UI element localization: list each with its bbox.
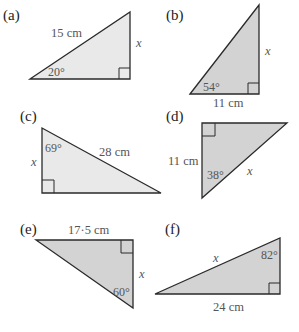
panel-label-c: (c) bbox=[20, 108, 37, 125]
unknown-label-e: x bbox=[138, 267, 145, 281]
angle-label-c: 69° bbox=[45, 141, 62, 155]
triangle-c-shape bbox=[42, 128, 161, 193]
adjacent-label-b: 11 cm bbox=[213, 96, 244, 110]
triangle-a: (a) 15 cm x 20° bbox=[3, 7, 142, 79]
triangle-f-shape bbox=[155, 238, 280, 294]
opposite-label-e: 17·5 cm bbox=[68, 223, 110, 237]
angle-label-d: 38° bbox=[207, 168, 224, 182]
adjacent-label-d: 11 cm bbox=[168, 154, 199, 168]
triangle-a-shape bbox=[30, 12, 130, 79]
unknown-label-f: x bbox=[212, 251, 219, 265]
unknown-label-a: x bbox=[135, 36, 142, 50]
angle-label-a: 20° bbox=[48, 65, 65, 79]
panel-label-a: (a) bbox=[3, 7, 20, 24]
unknown-label-c: x bbox=[30, 155, 37, 169]
hypotenuse-label-a: 15 cm bbox=[51, 26, 82, 40]
panel-label-d: (d) bbox=[166, 108, 184, 125]
unknown-label-b: x bbox=[264, 44, 271, 58]
angle-label-f: 82° bbox=[261, 248, 278, 262]
triangle-b: (b) x 54° 11 cm bbox=[166, 5, 271, 110]
triangle-exercise-figure: (a) 15 cm x 20° (b) x 54° 11 cm (c) 69° … bbox=[0, 0, 299, 332]
hypotenuse-label-c: 28 cm bbox=[99, 145, 130, 159]
angle-label-e: 60° bbox=[113, 285, 130, 299]
panel-label-b: (b) bbox=[166, 7, 184, 24]
triangle-f: (f) x 82° 24 cm bbox=[155, 221, 280, 314]
triangle-b-shape bbox=[190, 5, 259, 94]
angle-label-b: 54° bbox=[203, 80, 220, 94]
unknown-label-d: x bbox=[246, 164, 253, 178]
triangle-c: (c) 69° 28 cm x bbox=[20, 108, 161, 193]
triangle-e: (e) 17·5 cm x 60° bbox=[20, 221, 145, 308]
triangle-d: (d) 11 cm 38° x bbox=[166, 108, 287, 198]
panel-label-f: (f) bbox=[165, 221, 180, 238]
opposite-label-f: 24 cm bbox=[213, 300, 244, 314]
panel-label-e: (e) bbox=[20, 221, 37, 238]
